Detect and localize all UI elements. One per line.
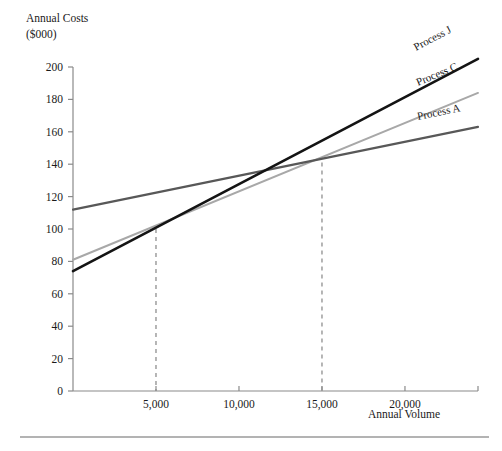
series-lines: [73, 59, 478, 271]
series-label-process-c: Process C: [414, 60, 459, 88]
y-axis-tick-labels: 020406080100120140160180200: [46, 61, 64, 397]
x-tick-label: 10,000: [223, 398, 255, 411]
x-axis-title: Annual Volume: [368, 408, 440, 420]
y-axis-ticks: [68, 67, 73, 391]
cost-volume-chart: Annual Costs ($000) 02040608010012014016…: [0, 0, 502, 451]
y-tick-label: 40: [52, 320, 64, 332]
y-tick-label: 20: [52, 353, 64, 365]
y-tick-label: 180: [46, 93, 64, 105]
series-line-process-j: [73, 59, 478, 271]
x-tick-label: 15,000: [306, 398, 338, 411]
y-tick-label: 0: [57, 385, 63, 397]
y-tick-label: 160: [46, 126, 64, 138]
y-tick-label: 120: [46, 191, 64, 203]
series-label-process-j: Process J: [411, 23, 453, 53]
y-tick-label: 60: [52, 288, 64, 300]
series-label-process-a: Process A: [416, 101, 461, 122]
x-axis-ticks: [156, 386, 478, 391]
series-labels: Process JProcess CProcess A: [411, 23, 461, 122]
x-tick-label: 5,000: [143, 398, 169, 411]
y-tick-label: 80: [52, 255, 64, 267]
y-tick-label: 200: [46, 61, 64, 73]
y-axis-title-line1: Annual Costs: [26, 12, 89, 24]
y-tick-label: 140: [46, 158, 64, 170]
chart-canvas: Annual Costs ($000) 02040608010012014016…: [0, 0, 502, 451]
annotation-lines: [156, 163, 322, 391]
y-axis-title-line2: ($000): [26, 28, 57, 41]
y-tick-label: 100: [46, 223, 64, 235]
series-line-process-a: [73, 127, 478, 210]
